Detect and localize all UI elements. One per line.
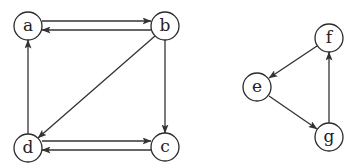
node-label: d [23, 137, 34, 157]
node-c: c [151, 133, 179, 161]
node-f: f [315, 24, 343, 52]
nodes-layer: abcdefg [14, 12, 343, 162]
node-e: e [243, 73, 271, 101]
node-label: e [252, 76, 262, 96]
edge-e-to-g [269, 96, 317, 129]
edge-f-to-e [269, 46, 317, 78]
node-label: b [160, 15, 171, 35]
edge-b-to-d [38, 36, 155, 138]
node-d: d [14, 134, 42, 162]
node-a: a [14, 12, 42, 40]
node-label: g [324, 126, 335, 146]
node-label: a [23, 15, 33, 35]
edges-layer [28, 21, 329, 150]
node-b: b [151, 12, 179, 40]
directed-graph: abcdefg [0, 0, 357, 167]
node-label: c [160, 136, 170, 156]
node-g: g [315, 123, 343, 151]
